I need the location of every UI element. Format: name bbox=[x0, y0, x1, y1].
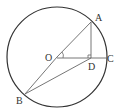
label-a: A bbox=[95, 12, 103, 23]
geometry-diagram: A O D C B bbox=[0, 0, 117, 108]
segment-oa bbox=[57, 22, 91, 57]
label-c: C bbox=[107, 53, 114, 64]
label-d: D bbox=[88, 61, 95, 72]
segment-bd bbox=[25, 58, 91, 94]
angle-arc-o bbox=[62, 52, 63, 58]
label-b: B bbox=[16, 95, 23, 106]
label-o: O bbox=[45, 52, 52, 63]
